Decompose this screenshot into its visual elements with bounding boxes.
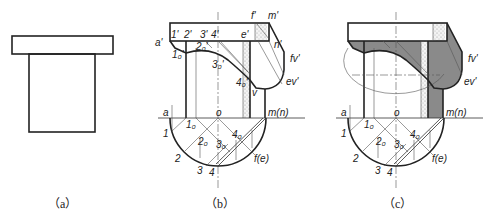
cylinder-body — [29, 54, 95, 132]
label-3-0: 3₀ — [394, 139, 404, 150]
technical-drawing: （a） — [0, 0, 493, 220]
label-o: o — [216, 107, 222, 118]
label-4: 4 — [387, 167, 393, 178]
label-3: 3 — [375, 165, 381, 176]
label-3-0: 3₀ — [216, 139, 226, 150]
label-m-n: m(n) — [446, 107, 467, 118]
label-1: 1 — [163, 128, 169, 139]
panel-c: fv' ev' a o m(n) 1 2 3 4 f(e) 1₀ 2₀ 3₀ 4… — [336, 12, 483, 211]
caption-c: （c） — [383, 197, 412, 211]
label-f-e: f(e) — [432, 153, 447, 164]
label-fv: fv' — [468, 53, 479, 64]
caption-b: （b） — [205, 197, 235, 211]
label-3: 3 — [197, 165, 203, 176]
label-m-prime: m' — [268, 10, 279, 21]
label-2-0: 2₀ — [375, 136, 386, 147]
label-4: 4 — [209, 167, 215, 178]
label-f-e: f(e) — [254, 153, 269, 164]
label-ev: ev' — [286, 76, 300, 87]
label-n-prime: n' — [274, 39, 283, 50]
stipple-plate — [255, 23, 267, 41]
label-4-0-prime: 4₀' — [236, 77, 249, 88]
label-ev: ev' — [464, 76, 478, 87]
label-2-0-prime: 2₀' — [195, 41, 209, 52]
label-a: a — [163, 107, 169, 118]
panel-a: （a） — [12, 36, 113, 211]
label-4-0: 4₀ — [410, 129, 420, 140]
label-2: 2 — [352, 153, 359, 164]
caption-a: （a） — [48, 197, 77, 211]
label-1: 1 — [341, 128, 347, 139]
label-4-0: 4₀ — [232, 129, 242, 140]
label-3-0-prime: 3₀' — [212, 59, 225, 70]
label-m-n: m(n) — [268, 107, 289, 118]
label-2-prime: 2' — [183, 29, 193, 40]
label-a: a — [341, 107, 347, 118]
label-4-prime: 4' — [211, 29, 220, 40]
panel-b: a' 1' 2' 3' 4' e' f' m' n' fv' ev' 1₀' 2… — [155, 10, 305, 211]
label-2: 2 — [174, 153, 181, 164]
top-plate — [12, 36, 113, 54]
label-1-0: 1₀ — [364, 119, 374, 130]
label-a-prime: a' — [155, 37, 164, 48]
label-e-prime: e' — [241, 29, 250, 40]
label-1-0-prime: 1₀' — [172, 49, 185, 60]
label-f-prime: f' — [251, 10, 257, 21]
label-2-0: 2₀ — [197, 136, 208, 147]
label-fv: fv' — [290, 53, 301, 64]
label-o: o — [394, 107, 400, 118]
top-plate — [348, 23, 447, 41]
stipple-plate — [433, 23, 445, 41]
label-1-0: 1₀ — [186, 119, 196, 130]
label-1-prime: 1' — [171, 29, 180, 40]
shadow-column — [428, 41, 443, 118]
label-3-prime: 3' — [200, 29, 209, 40]
